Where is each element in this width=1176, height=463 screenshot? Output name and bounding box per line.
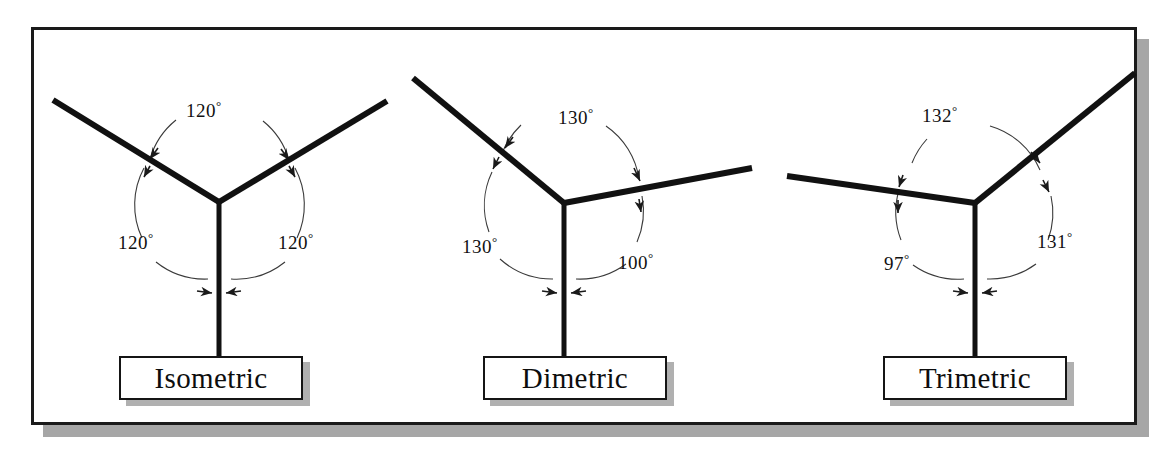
axis-upper-left — [787, 176, 975, 203]
dimetric-angle-left: 130° — [462, 236, 498, 258]
dimetric-angle-right: 100° — [618, 252, 654, 274]
arc-top-right-seg — [606, 126, 639, 179]
trimetric-angle-right: 131° — [1037, 231, 1073, 253]
arc-right-lower-seg — [231, 262, 285, 279]
dimetric-caption-label: Dimetric — [522, 362, 628, 395]
arc-left-lower-seg — [500, 259, 553, 279]
arc-left-upper-seg — [135, 168, 144, 238]
isometric-axes — [53, 100, 387, 356]
trimetric-diagram — [787, 73, 1135, 356]
figure-container: 120° 120° 120° 130° 130° 100° 132° 97° 1… — [0, 0, 1176, 463]
trimetric-axes — [787, 73, 1135, 356]
isometric-caption-box: Isometric — [119, 356, 303, 400]
arc-left-upper-seg — [896, 190, 901, 240]
trimetric-angle-top: 132° — [922, 105, 958, 127]
arc-left-lower-seg — [913, 265, 964, 279]
arc-left-upper-seg — [484, 172, 492, 232]
isometric-caption-label: Isometric — [154, 362, 267, 395]
arc-top-right-seg — [990, 126, 1040, 170]
trimetric-caption-box: Trimetric — [883, 356, 1067, 400]
axis-upper-right — [564, 168, 752, 203]
isometric-angle-right: 120° — [278, 232, 314, 254]
arc-right-lower-seg — [987, 264, 1036, 279]
arc-top-left-seg — [912, 139, 927, 163]
isometric-angle-top: 120° — [186, 100, 222, 122]
trimetric-caption-label: Trimetric — [919, 362, 1031, 395]
isometric-angle-left: 120° — [118, 232, 154, 254]
axis-upper-left — [413, 78, 564, 203]
axis-upper-right — [219, 101, 387, 202]
trimetric-angle-left: 97° — [884, 253, 910, 275]
axis-upper-right — [975, 73, 1135, 203]
arc-right-upper-seg — [295, 168, 304, 238]
dimetric-caption-box: Dimetric — [483, 356, 667, 400]
dimetric-angle-top: 130° — [558, 107, 594, 129]
isometric-diagram — [53, 100, 387, 356]
arc-left-lower-seg — [156, 262, 208, 279]
